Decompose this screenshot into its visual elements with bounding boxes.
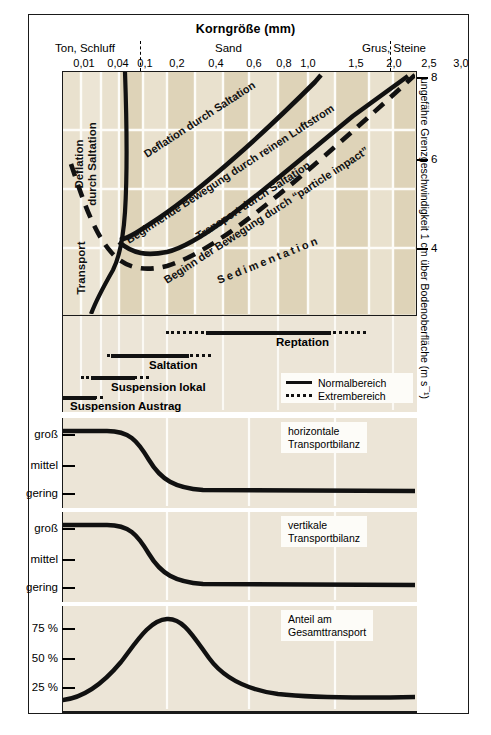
panel-3-ylabel-25: 25 % — [0, 681, 58, 693]
panel-3-ylabel-75: 75 % — [0, 622, 58, 634]
x-tick-7: 1,0 — [300, 57, 315, 69]
x-tick-8: 1,5 — [348, 57, 363, 69]
y-tick-label-8: 8 — [431, 71, 437, 83]
panel-3-caption-line2: Gesamttransport — [288, 626, 366, 639]
panel-3-ytick-50 — [62, 658, 75, 660]
panel-2-ytick-mittel — [62, 559, 75, 561]
mode-label-suspension-austrag: Suspension Austrag — [70, 400, 181, 412]
panel-3-caption: Anteil am Gesamttransport — [281, 610, 373, 641]
panel-2-ytick-gross — [62, 528, 75, 530]
panel-1-ytick-gering — [62, 493, 75, 495]
transport-mode-panel: Reptation Saltation Suspension lokal Sus… — [62, 316, 417, 412]
panel-vertikale-transportbilanz: vertikale Transportbilanz — [62, 512, 417, 602]
x-tick-2: 0,1 — [137, 57, 152, 69]
legend: Normalbereich Extrembereich — [281, 373, 413, 403]
x-axis-tick-labels: 0,01 0,04 0,1 0,2 0,4 0,6 0,8 1,0 1,5 2,… — [0, 57, 491, 71]
svg-text:Transport: Transport — [75, 241, 87, 294]
bottom-axis-rule — [62, 711, 417, 713]
panel-2-caption-line1: vertikale — [288, 519, 360, 532]
legend-label-extrembereich: Extrembereich — [318, 390, 386, 402]
panel-1-caption-line1: horizontale — [288, 425, 360, 438]
panel-2-ytick-gering — [62, 587, 75, 589]
grain-class-grus-steine: Grus, Steine — [362, 42, 426, 54]
grain-class-ton-schluff: Ton, Schluff — [55, 42, 115, 54]
panel-2-caption: vertikale Transportbilanz — [281, 516, 367, 547]
x-tick-1: 0,04 — [107, 57, 128, 69]
panel-1-caption: horizontale Transportbilanz — [281, 422, 367, 453]
panel-horizontale-transportbilanz: horizontale Transportbilanz — [62, 418, 417, 508]
x-tick-3: 0,2 — [169, 57, 184, 69]
reptation-normal-bar — [206, 331, 331, 335]
main-plot-area: Deflation durch Saltation Transport Defl… — [62, 71, 417, 316]
x-tick-4: 0,4 — [208, 57, 223, 69]
y-tick-label-4: 4 — [431, 242, 437, 254]
panel-3-caption-line1: Anteil am — [288, 613, 366, 626]
right-axis-title: ungefähre Grenzgeschwindigkeit 1 cm über… — [408, 78, 430, 308]
saltation-normal-bar — [111, 354, 189, 358]
page-title: Korngröße (mm) — [0, 22, 491, 36]
panel-anteil-am-gesamttransport: Anteil am Gesamttransport — [62, 606, 417, 711]
legend-row-extrembereich: Extrembereich — [286, 389, 408, 402]
panel-2-ylabel-gering: gering — [0, 581, 58, 593]
panel-1-ytick-gross — [62, 434, 75, 436]
solid-line-icon — [286, 381, 312, 384]
grain-class-sand: Sand — [215, 42, 242, 54]
legend-label-normalbereich: Normalbereich — [318, 377, 386, 389]
panel-2-ylabel-gross: groß — [0, 522, 58, 534]
x-tick-11: 3,0 — [453, 57, 468, 69]
suspension-lokal-normal-bar — [91, 376, 135, 380]
panel-1-ytick-mittel — [62, 465, 75, 467]
panel-1-caption-line2: Transportbilanz — [288, 438, 360, 451]
svg-text:durch Saltation: durch Saltation — [86, 122, 98, 206]
panel-2-caption-line2: Transportbilanz — [288, 532, 360, 545]
figure-root: Korngröße (mm) Ton, Schluff Sand Grus, S… — [0, 0, 491, 735]
panel-2-ylabel-mittel: mittel — [0, 553, 58, 565]
panel-1-ylabel-gross: groß — [0, 428, 58, 440]
legend-row-normalbereich: Normalbereich — [286, 376, 408, 389]
mode-label-saltation: Saltation — [149, 359, 198, 371]
panel-3-ytick-25 — [62, 687, 75, 689]
dotted-line-icon — [286, 394, 312, 397]
svg-text:Deflation: Deflation — [73, 139, 85, 188]
x-tick-6: 0,8 — [276, 57, 291, 69]
x-tick-10: 2,5 — [421, 57, 436, 69]
x-tick-9: 2,0 — [386, 57, 401, 69]
mode-label-reptation: Reptation — [276, 336, 329, 348]
panel-3-ylabel-50: 50 % — [0, 652, 58, 664]
panel-1-ylabel-mittel: mittel — [0, 459, 58, 471]
x-tick-0: 0,01 — [73, 57, 94, 69]
panel-3-ytick-75 — [62, 628, 75, 630]
panel-1-ylabel-gering: gering — [0, 487, 58, 499]
x-tick-5: 0,6 — [246, 57, 261, 69]
y-tick-label-6: 6 — [431, 153, 437, 165]
mode-label-suspension-lokal: Suspension lokal — [111, 381, 206, 393]
